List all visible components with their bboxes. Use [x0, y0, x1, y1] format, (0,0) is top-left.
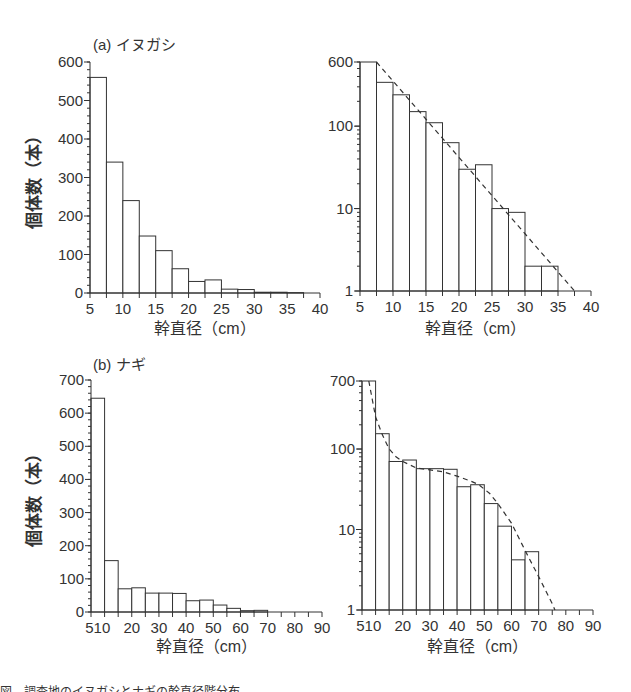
- x-tick-label: 60: [503, 617, 520, 634]
- bar: [511, 560, 525, 610]
- x-tick-label: 80: [557, 617, 574, 634]
- panel-title: (b) ナギ: [93, 356, 146, 373]
- x-tick-label: 20: [451, 298, 468, 315]
- panel-title: (a) イヌガシ: [93, 36, 176, 53]
- bar: [525, 266, 542, 291]
- bar: [457, 487, 471, 610]
- chart-b-log: 5102030405060708090110100700幹直径（cm）: [330, 372, 601, 655]
- bars: [360, 62, 558, 291]
- bar: [159, 593, 173, 612]
- bar: [360, 62, 377, 291]
- y-tick-label: 500: [58, 92, 83, 109]
- bar: [145, 593, 159, 612]
- bar: [484, 504, 498, 610]
- x-tick-label: 80: [286, 619, 303, 636]
- bar: [213, 605, 227, 612]
- bar: [189, 281, 205, 293]
- x-tick-label: 30: [422, 617, 439, 634]
- y-tick-label: 400: [58, 130, 83, 147]
- x-tick-label: 30: [517, 298, 534, 315]
- chart-a-linear: 5101520253035400100200300400500600幹直径（cm…: [24, 36, 328, 337]
- x-tick-label: 510: [356, 617, 381, 634]
- bar: [525, 552, 539, 610]
- bars: [90, 77, 304, 293]
- bar: [389, 461, 403, 610]
- chart-b-linear: 5102030405060708090010020030040050060070…: [24, 356, 330, 655]
- figure-caption: 図 調査地のイヌガシとナギの幹直径階分布: [0, 682, 631, 692]
- bar: [238, 290, 254, 293]
- bar: [509, 212, 526, 291]
- y-tick-label: 600: [328, 53, 353, 70]
- bar: [459, 169, 476, 291]
- y-tick-label: 300: [58, 169, 83, 186]
- bar: [443, 143, 460, 291]
- y-tick-label: 300: [59, 504, 84, 521]
- x-tick-label: 15: [147, 300, 164, 317]
- x-tick-label: 5: [86, 300, 94, 317]
- bar: [376, 434, 390, 610]
- x-tick-label: 10: [385, 298, 402, 315]
- x-tick-label: 25: [213, 300, 230, 317]
- bar: [139, 236, 155, 293]
- x-tick-label: 35: [279, 300, 296, 317]
- x-tick-label: 70: [259, 619, 276, 636]
- bar: [173, 593, 187, 612]
- x-tick-label: 30: [246, 300, 263, 317]
- x-axis-label: 幹直径（cm）: [425, 319, 526, 337]
- x-tick-label: 40: [449, 617, 466, 634]
- x-tick-label: 5: [356, 298, 364, 315]
- y-tick-label: 0: [76, 603, 84, 620]
- x-tick-label: 50: [476, 617, 493, 634]
- y-tick-label: 100: [59, 570, 84, 587]
- y-tick-label: 100: [58, 246, 83, 263]
- bar: [426, 123, 443, 291]
- x-tick-label: 60: [232, 619, 249, 636]
- bar: [410, 112, 427, 291]
- bar: [492, 209, 509, 291]
- y-tick-label: 10: [336, 200, 353, 217]
- x-axis-label: 幹直径（cm）: [427, 637, 528, 655]
- bar: [476, 165, 493, 291]
- y-tick-label: 200: [58, 207, 83, 224]
- x-tick-label: 30: [151, 619, 168, 636]
- figure: 5101520253035400100200300400500600幹直径（cm…: [0, 0, 631, 692]
- y-axis-label: 個体数（本）: [24, 127, 44, 230]
- bar: [221, 289, 237, 293]
- chart-a-log: 510152025303540110100600幹直径（cm）: [328, 53, 599, 337]
- bar: [118, 589, 132, 612]
- bar: [90, 77, 106, 293]
- bar: [200, 600, 214, 612]
- y-tick-label: 400: [59, 470, 84, 487]
- x-tick-label: 25: [484, 298, 501, 315]
- bar: [498, 526, 512, 610]
- bar: [132, 588, 146, 612]
- x-tick-label: 90: [314, 619, 331, 636]
- y-tick-label: 600: [59, 404, 84, 421]
- y-tick-label: 1: [347, 601, 355, 618]
- x-tick-label: 40: [178, 619, 195, 636]
- bar: [172, 269, 188, 293]
- x-tick-label: 510: [85, 619, 110, 636]
- bar: [444, 469, 458, 610]
- y-tick-label: 0: [75, 284, 83, 301]
- bar: [471, 485, 485, 610]
- y-tick-label: 100: [330, 440, 355, 457]
- y-tick-label: 10: [338, 521, 355, 538]
- x-tick-label: 20: [394, 617, 411, 634]
- histogram-figure: 5101520253035400100200300400500600幹直径（cm…: [0, 0, 631, 692]
- y-tick-label: 500: [59, 437, 84, 454]
- y-tick-label: 600: [58, 53, 83, 70]
- bar: [91, 398, 105, 612]
- bars: [91, 398, 268, 612]
- x-axis-label: 幹直径（cm）: [156, 637, 257, 655]
- x-tick-label: 50: [205, 619, 222, 636]
- bar: [186, 601, 200, 612]
- x-tick-label: 40: [312, 300, 329, 317]
- bar: [105, 561, 119, 612]
- bar: [106, 162, 122, 293]
- y-tick-label: 200: [59, 537, 84, 554]
- y-tick-label: 700: [330, 372, 355, 389]
- bar: [377, 82, 394, 291]
- x-tick-label: 40: [583, 298, 600, 315]
- x-tick-label: 35: [550, 298, 567, 315]
